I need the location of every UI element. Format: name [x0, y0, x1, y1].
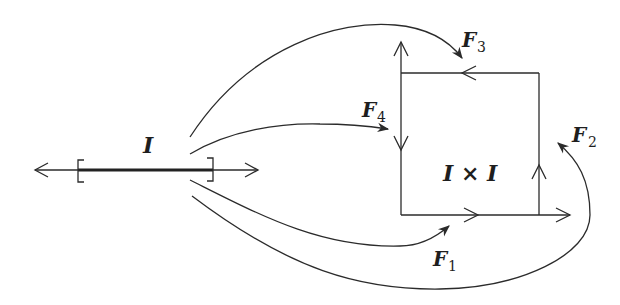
map-f2-label: F 2: [571, 123, 597, 150]
svg-text:1: 1: [448, 258, 457, 274]
svg-text:4: 4: [377, 109, 386, 125]
map-f3-label: F 3: [461, 28, 486, 55]
svg-text:2: 2: [588, 134, 597, 150]
interval-label: I: [142, 132, 154, 158]
map-f3-arrow: [190, 24, 462, 137]
svg-text:3: 3: [477, 39, 486, 55]
square-label: I × I: [442, 160, 498, 186]
square: [394, 42, 570, 222]
map-f4-arrow: [190, 124, 388, 154]
svg-text:F: F: [432, 247, 449, 271]
map-f1-arrow: [190, 180, 449, 246]
diagram: I I × I F 3 F 4 F 1 F 2: [0, 0, 620, 305]
map-f1-label: F 1: [432, 247, 457, 274]
map-f2-arrow: [192, 143, 590, 289]
svg-text:F: F: [461, 28, 478, 52]
svg-text:F: F: [571, 123, 588, 147]
svg-text:F: F: [361, 98, 378, 122]
map-f4-label: F 4: [361, 98, 386, 125]
real-line: [35, 158, 258, 182]
